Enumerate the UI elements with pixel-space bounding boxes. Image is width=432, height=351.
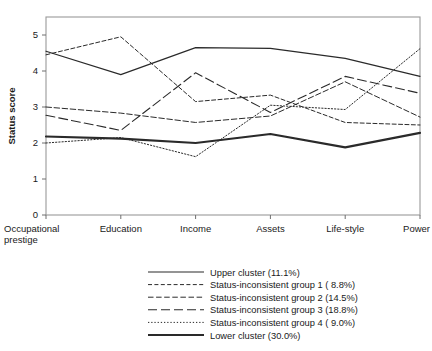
series-line-1 bbox=[46, 48, 420, 77]
x-category-label: Income bbox=[180, 223, 211, 234]
legend-label-2: Status-inconsistent group 1 ( 8.8%) bbox=[210, 280, 355, 290]
legend-label-3: Status-inconsistent group 2 (14.5%) bbox=[210, 293, 358, 303]
x-category-label: prestige bbox=[4, 234, 38, 245]
legend-label-6: Lower cluster (30.0%) bbox=[210, 331, 300, 341]
x-category-label: Power bbox=[403, 223, 430, 234]
y-tick-label: 0 bbox=[33, 209, 38, 220]
legend-label-4: Status-inconsistent group 3 (18.8%) bbox=[210, 305, 358, 315]
series-line-5 bbox=[46, 49, 420, 157]
legend-label-5: Status-inconsistent group 4 ( 9.0%) bbox=[210, 318, 355, 328]
y-tick-label: 1 bbox=[33, 173, 38, 184]
y-tick-label: 2 bbox=[33, 137, 38, 148]
series-line-4 bbox=[46, 73, 420, 131]
legend-label-1: Upper cluster (11.1%) bbox=[210, 268, 300, 278]
series-line-3 bbox=[46, 82, 420, 123]
x-category-label: Assets bbox=[256, 223, 285, 234]
y-tick-label: 5 bbox=[33, 29, 38, 40]
y-tick-label: 3 bbox=[33, 101, 38, 112]
x-category-label: Occupational bbox=[4, 223, 59, 234]
x-category-label: Life-style bbox=[326, 223, 364, 234]
plot-frame bbox=[46, 17, 420, 215]
y-axis-title: Status score bbox=[6, 87, 17, 144]
series-line-6 bbox=[46, 133, 420, 147]
x-category-label: Education bbox=[100, 223, 142, 234]
chart-figure: 012345Status scoreOccupationalprestigeEd… bbox=[0, 0, 432, 351]
y-tick-label: 4 bbox=[33, 65, 38, 76]
line-chart: 012345Status scoreOccupationalprestigeEd… bbox=[0, 0, 432, 351]
